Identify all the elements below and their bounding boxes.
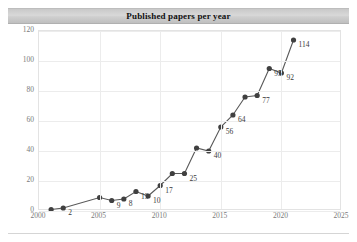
gridline-horizontal bbox=[39, 91, 340, 92]
x-axis-tick-label: 2025 bbox=[334, 212, 349, 220]
plot-area: 29813101725405664779592114 bbox=[38, 30, 341, 210]
x-axis-tick-label: 2005 bbox=[91, 212, 106, 220]
y-axis-tick-label: 40 bbox=[4, 146, 34, 154]
data-point-marker bbox=[255, 93, 260, 98]
gridline-horizontal bbox=[39, 61, 340, 62]
data-point-label: 95 bbox=[274, 70, 282, 78]
x-axis-tick-label: 2000 bbox=[31, 212, 46, 220]
gridline-vertical bbox=[160, 31, 161, 209]
data-point-marker bbox=[230, 112, 235, 117]
x-axis-tick-label: 2015 bbox=[212, 212, 227, 220]
data-point-label: 77 bbox=[262, 97, 270, 105]
data-point-marker bbox=[170, 171, 175, 176]
data-point-label: 64 bbox=[238, 116, 246, 124]
data-point-label: 40 bbox=[214, 152, 222, 160]
data-point-marker bbox=[109, 198, 114, 203]
data-point-marker bbox=[194, 145, 199, 150]
y-axis-tick-label: 120 bbox=[4, 26, 34, 34]
y-axis: 020406080100120 bbox=[0, 30, 34, 210]
data-point-marker bbox=[133, 189, 138, 194]
gridline-horizontal bbox=[39, 151, 340, 152]
data-point-marker bbox=[182, 171, 187, 176]
x-axis-tick-label: 2010 bbox=[152, 212, 167, 220]
data-point-marker bbox=[121, 196, 126, 201]
y-axis-tick-label: 20 bbox=[4, 176, 34, 184]
data-point-label: 56 bbox=[226, 128, 234, 136]
y-axis-tick-label: 0 bbox=[4, 206, 34, 214]
y-axis-tick-label: 100 bbox=[4, 56, 34, 64]
data-point-label: 25 bbox=[189, 175, 197, 183]
data-point-label: 8 bbox=[129, 200, 133, 208]
x-axis-tick-label: 2020 bbox=[273, 212, 288, 220]
gridline-vertical bbox=[281, 31, 282, 209]
chart-title-band: Published papers per year bbox=[8, 8, 349, 24]
y-axis-tick-label: 60 bbox=[4, 116, 34, 124]
data-point-marker bbox=[267, 66, 272, 71]
data-point-label: 114 bbox=[299, 41, 310, 49]
x-axis: 200020052010201520202025 bbox=[38, 212, 341, 226]
data-point-label: 9 bbox=[117, 202, 121, 210]
data-point-marker bbox=[61, 205, 66, 210]
data-point-marker bbox=[291, 37, 296, 42]
gridline-vertical bbox=[221, 31, 222, 209]
data-point-marker bbox=[242, 94, 247, 99]
gridline-vertical bbox=[100, 31, 101, 209]
y-axis-tick-label: 80 bbox=[4, 86, 34, 94]
series-line bbox=[51, 40, 293, 210]
data-point-label: 17 bbox=[165, 187, 173, 195]
chart-title: Published papers per year bbox=[126, 12, 230, 21]
data-point-label: 92 bbox=[286, 74, 294, 82]
gridline-horizontal bbox=[39, 31, 340, 32]
data-point-label: 10 bbox=[153, 197, 161, 205]
data-point-label: 13 bbox=[141, 193, 149, 201]
chart-figure: Published papers per year 02040608010012… bbox=[0, 0, 357, 242]
gridline-horizontal bbox=[39, 121, 340, 122]
footer-divider bbox=[8, 233, 349, 234]
